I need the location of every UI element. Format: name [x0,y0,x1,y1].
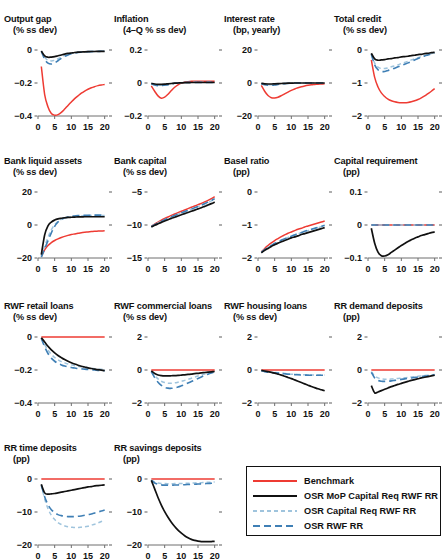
x-tick-label: 10 [66,551,76,559]
y-tick-mark-right [219,82,222,83]
panel-title-line1: Bank capital [114,156,166,166]
y-tick-mark [145,369,148,370]
y-tick-label: −20 [237,111,252,121]
y-tick-mark-right [109,257,112,258]
panel-title: RR time deposits(pp) [4,443,77,464]
legend-label: Benchmark [304,476,354,486]
y-tick-mark-right [219,336,222,337]
x-tick-label: 0 [35,409,40,419]
panel-title: RR demand deposits(pp) [334,301,423,322]
y-tick-mark [255,191,258,192]
panel-title: RR savings deposits(pp) [114,443,202,464]
x-tick-label: 5 [272,409,277,419]
series-line-benchmark [41,67,104,116]
panel-title-line2: (% ss dev) [224,312,307,323]
y-tick-mark [145,224,148,225]
x-tick-label: 5 [162,122,167,132]
y-tick-label: 0 [27,332,32,342]
y-tick-label: −0.1 [344,253,362,263]
series-line-osr-capital-req-rwf-rr [41,485,104,528]
panel-plot: 200−2005101520 [224,44,334,114]
x-tick-label: 20 [430,264,440,274]
series-line-benchmark [261,84,324,98]
y-tick-mark-right [439,224,442,225]
panel-title-line1: RWF retail loans [4,301,73,311]
y-tick-mark [145,257,148,258]
y-tick-label: 2 [137,332,142,342]
y-tick-mark [35,511,38,512]
panel-title-line1: Bank liquid assets [4,156,82,166]
y-tick-label: 0 [27,45,32,55]
y-tick-mark-right [109,402,112,403]
y-tick-mark-right [109,115,112,116]
x-tick-label: 10 [176,551,186,559]
y-tick-mark [35,336,38,337]
y-tick-label: 0 [357,45,362,55]
x-tick-label: 20 [100,409,110,419]
y-tick-mark-right [219,191,222,192]
series-line-osr-mop-capital-req-rwf-rr [261,370,324,390]
y-tick-mark [145,478,148,479]
y-tick-label: −1 [242,220,252,230]
panel-title-line1: Interest rate [224,14,275,24]
x-tick-label: 0 [35,551,40,559]
x-tick-label: 10 [286,264,296,274]
y-tick-mark [145,49,148,50]
y-tick-mark [365,369,368,370]
panel-title-line2: (% ss dev) [4,312,73,323]
x-tick-label: 0 [145,409,150,419]
y-tick-mark-right [329,82,332,83]
y-tick-mark [35,369,38,370]
panel-title: Bank capital(% ss dev) [114,156,167,177]
panel-title-line1: RR time deposits [4,443,77,453]
y-tick-mark-right [329,369,332,370]
x-tick-label: 0 [255,264,260,274]
panel-plot: 0−0.2−0.405101520 [4,331,114,401]
x-tick-label: 5 [382,264,387,274]
y-tick-mark-right [109,49,112,50]
y-tick-mark-right [439,336,442,337]
x-tick-label: 20 [210,122,220,132]
y-tick-mark-right [109,511,112,512]
x-tick-label: 10 [286,409,296,419]
y-tick-label: −2 [352,111,362,121]
y-tick-label: −15 [127,253,142,263]
y-tick-mark-right [109,336,112,337]
panel-title-line2: (% ss dev) [334,25,387,36]
y-tick-mark [35,544,38,545]
panel-title: RWF housing loans(% ss dev) [224,301,307,322]
y-tick-mark [255,336,258,337]
legend-label: OSR MoP Capital Req RWF RR [304,491,438,501]
y-tick-label: 0.2 [129,45,142,55]
series-line-osr-mop-capital-req-rwf-rr [151,480,214,541]
panel-title-line2: (pp) [224,167,269,178]
y-tick-mark-right [329,224,332,225]
legend: BenchmarkOSR MoP Capital Req RWF RROSR C… [246,466,441,536]
legend-swatch-osr_rwf_rr [253,521,297,531]
panel-title-line2: (bp, yearly) [224,25,280,36]
y-tick-mark-right [109,478,112,479]
y-tick-mark-right [109,82,112,83]
series-line-benchmark [371,60,434,103]
y-tick-mark [145,402,148,403]
panel-title-line2: (4–Q % ss dev) [114,25,186,36]
y-tick-mark [255,115,258,116]
panel-plot: 0−10−2005101520 [114,473,224,543]
y-tick-mark-right [439,402,442,403]
x-tick-label: 20 [430,409,440,419]
x-tick-label: 15 [303,264,313,274]
y-tick-mark-right [329,191,332,192]
y-tick-mark [365,115,368,116]
panel-plot: 20−205101520 [334,331,443,401]
panel-title-line1: RWF housing loans [224,301,307,311]
y-tick-mark-right [219,511,222,512]
y-tick-mark [35,115,38,116]
panel-title: RWF retail loans(% ss dev) [4,301,73,322]
x-tick-label: 15 [83,409,93,419]
y-tick-label: 0 [137,78,142,88]
y-tick-label: 0 [137,474,142,484]
y-tick-label: −0.2 [124,111,142,121]
panel-plot: −5−10−1505101520 [114,186,224,256]
y-tick-mark [255,82,258,83]
x-tick-label: 20 [210,409,220,419]
